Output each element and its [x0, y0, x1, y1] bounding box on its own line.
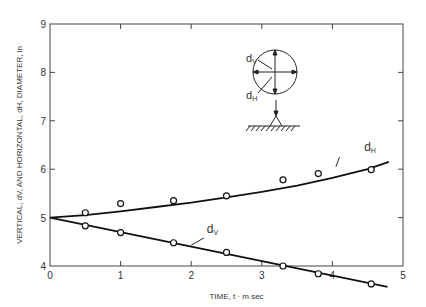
- hatch-line: [271, 126, 275, 131]
- data-point-dh: [368, 167, 374, 173]
- data-point-dv: [315, 271, 321, 277]
- x-tick-label: 3: [259, 270, 265, 281]
- series-line-dv: [50, 218, 388, 287]
- hatch-line: [281, 126, 285, 131]
- data-point-dv: [82, 223, 88, 229]
- y-tick-label: 7: [40, 116, 46, 127]
- arrow-head: [253, 70, 258, 74]
- hatch-line: [266, 126, 270, 131]
- hatch-line: [251, 126, 255, 131]
- hatch-line: [261, 126, 265, 131]
- data-point-dv: [171, 240, 177, 246]
- inset-label-dv: dV: [246, 52, 257, 65]
- hatch-line: [276, 126, 280, 131]
- inset-label-dh: dH: [246, 89, 257, 102]
- hatch-line: [246, 126, 250, 131]
- support-wedge: [270, 116, 282, 126]
- series-label-dv: dV: [207, 222, 219, 236]
- y-tick-label: 6: [40, 164, 46, 175]
- series-label-leader: [336, 157, 340, 167]
- series-label-leader: [191, 238, 204, 245]
- chart: 012345456789 dHdVTIME, t · m secVERTICAL…: [0, 0, 426, 307]
- x-tick-label: 0: [47, 270, 53, 281]
- y-tick-label: 9: [40, 19, 46, 30]
- y-axis-label: VERTICAL, dV, AND HORIZONTAL, dH, DIAMET…: [15, 46, 24, 244]
- data-point-dh: [280, 177, 286, 183]
- plot-frame: [50, 24, 403, 266]
- x-tick-label: 1: [118, 270, 124, 281]
- hatch-line: [291, 126, 295, 131]
- series-label-dh: dH: [364, 140, 376, 154]
- y-tick-label: 4: [40, 261, 46, 272]
- data-point-dh: [82, 210, 88, 216]
- axes-frame: [50, 24, 403, 266]
- inset-dh-leader: [258, 77, 272, 93]
- data-point-dv: [224, 249, 230, 255]
- x-tick-label: 2: [188, 270, 194, 281]
- data-point-dv: [118, 230, 124, 236]
- data-point-dh: [315, 171, 321, 177]
- y-tick-label: 5: [40, 213, 46, 224]
- arrow-head: [292, 70, 297, 74]
- ground-hatch: [246, 126, 295, 131]
- series-line-dh: [50, 162, 389, 218]
- arrow-head: [273, 89, 277, 94]
- hatch-line: [256, 126, 260, 131]
- inset-dv-leader: [258, 60, 272, 69]
- x-tick-label: 5: [400, 270, 406, 281]
- data-point-dh: [224, 193, 230, 199]
- arrow-head: [273, 50, 277, 55]
- x-axis-label: TIME, t · m sec: [209, 292, 263, 301]
- data-point-dv: [280, 263, 286, 269]
- data-point-dh: [118, 201, 124, 207]
- y-tick-label: 8: [40, 67, 46, 78]
- hatch-line: [286, 126, 290, 131]
- data-point-dv: [368, 281, 374, 287]
- data-point-dh: [171, 198, 177, 204]
